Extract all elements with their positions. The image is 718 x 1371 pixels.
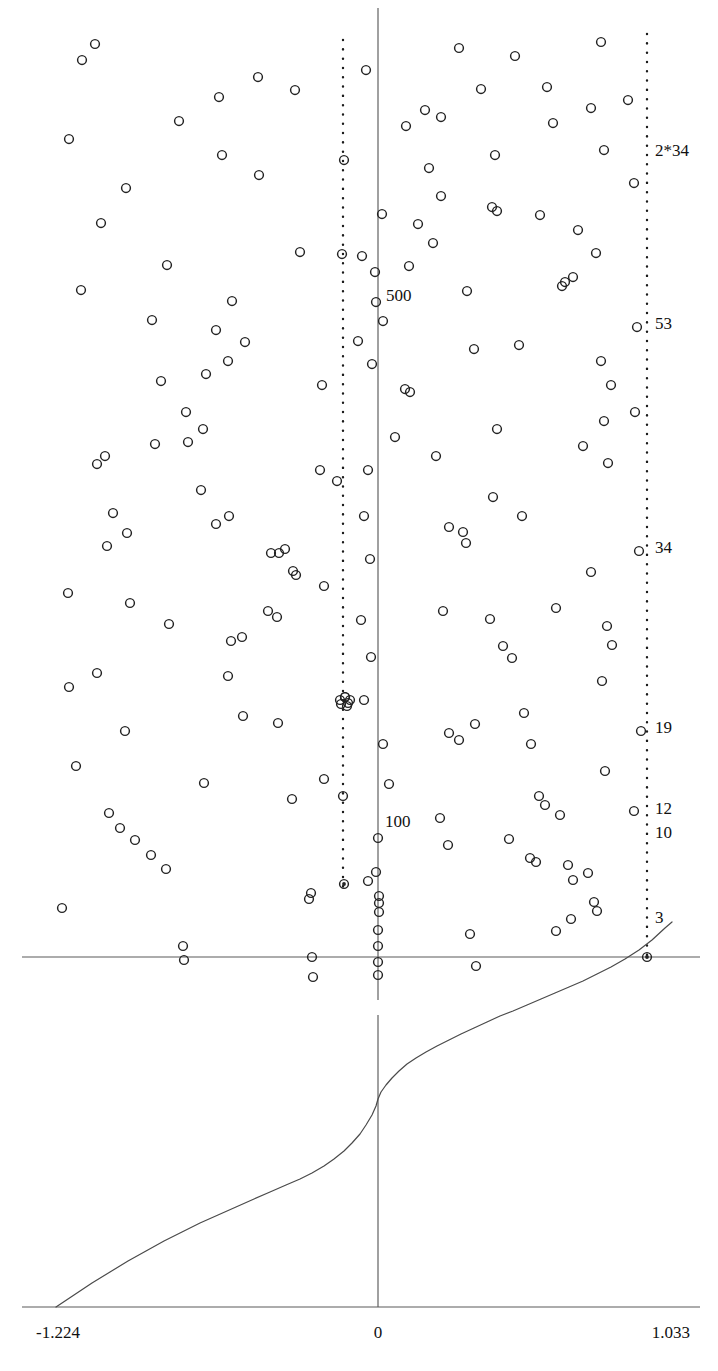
scatter-point [624, 96, 633, 105]
scatter-point [368, 360, 377, 369]
scatter-point [574, 226, 583, 235]
scatter-point [608, 641, 617, 650]
scatter-point [515, 341, 524, 350]
scatter-point [307, 889, 316, 898]
scatter-annotation-label: 53 [655, 314, 672, 333]
scatter-point [597, 357, 606, 366]
scatter-point [584, 869, 593, 878]
scatter-point [637, 727, 646, 736]
scatter-point [200, 779, 209, 788]
scatter-point [109, 509, 118, 518]
scatter-point [202, 370, 211, 379]
scatter-point [358, 252, 367, 261]
scatter-point [239, 712, 248, 721]
scatter-point [197, 486, 206, 495]
scatter-point [466, 930, 475, 939]
scatter-point [378, 210, 387, 219]
scatter-point [579, 442, 588, 451]
scatter-point [123, 529, 132, 538]
quantile-curve [56, 922, 672, 1307]
scatter-point [432, 452, 441, 461]
scatter-point [593, 907, 602, 916]
scatter-point [199, 425, 208, 434]
scatter-point [105, 809, 114, 818]
scatter-point [600, 417, 609, 426]
scatter-point [97, 219, 106, 228]
x-tick-label-center: 0 [374, 1323, 383, 1342]
scatter-point [163, 261, 172, 270]
scatter-point [520, 709, 529, 718]
scatter-point [391, 433, 400, 442]
scatter-point [182, 408, 191, 417]
scatter-point [491, 151, 500, 160]
scatter-point [354, 337, 363, 346]
scatter-point [472, 962, 481, 971]
scatter-point [151, 440, 160, 449]
scatter-point [455, 736, 464, 745]
scatter-point [364, 877, 373, 886]
scatter-points-group [58, 38, 652, 982]
scatter-point [305, 895, 314, 904]
scatter-point [273, 613, 282, 622]
scatter-point [405, 262, 414, 271]
scatter-point [288, 795, 297, 804]
scatter-point [375, 908, 384, 917]
scatter-point [364, 466, 373, 475]
scatter-point [360, 512, 369, 521]
scatter-point [175, 117, 184, 126]
marker-dot-lower-right [645, 955, 649, 959]
scatter-point [255, 171, 264, 180]
scatter-annotation-label: 10 [655, 823, 672, 842]
scatter-point [367, 653, 376, 662]
scatter-annotation-label: 500 [386, 286, 412, 305]
scatter-point [157, 377, 166, 386]
scatter-point [93, 669, 102, 678]
scatter-annotation-label: 34 [655, 538, 673, 557]
scatter-point [603, 622, 612, 631]
scatter-point [65, 135, 74, 144]
scatter-point [535, 792, 544, 801]
scatter-annotation-label: 2*34 [655, 141, 690, 160]
marker-dot-lower-left [342, 882, 346, 886]
scatter-point [148, 316, 157, 325]
scatter-point [126, 599, 135, 608]
scatter-point [607, 381, 616, 390]
scatter-point [455, 44, 464, 53]
scatter-point [372, 298, 381, 307]
scatter-point [635, 547, 644, 556]
scatter-point [604, 459, 613, 468]
scatter-point [508, 654, 517, 663]
scatter-point [77, 286, 86, 295]
scatter-point [64, 589, 73, 598]
scatter-point [238, 633, 247, 642]
scatter-point [445, 729, 454, 738]
scatter-point [437, 113, 446, 122]
scatter-point [552, 604, 561, 613]
figure-root: 2*3453341912103500100 -1.224 0 1.033 [0, 0, 718, 1371]
scatter-point [215, 93, 224, 102]
scatter-point [147, 851, 156, 860]
scatter-point [567, 915, 576, 924]
scatter-point [630, 807, 639, 816]
scatter-point [462, 539, 471, 548]
scatter-point [58, 904, 67, 913]
scatter-point [372, 868, 381, 877]
scatter-point [93, 460, 102, 469]
scatter-point [78, 56, 87, 65]
scatter-annotation-label: 100 [385, 812, 411, 831]
scatter-point [518, 512, 527, 521]
scatter-point [569, 273, 578, 282]
scatter-point [429, 239, 438, 248]
scatter-point [630, 179, 639, 188]
scatter-point [379, 317, 388, 326]
curve-panel: -1.224 0 1.033 [22, 922, 700, 1342]
scatter-point [536, 211, 545, 220]
scatter-point [505, 835, 514, 844]
x-tick-label-left: -1.224 [36, 1323, 80, 1342]
scatter-point [241, 338, 250, 347]
scatter-point [486, 615, 495, 624]
scatter-annotation-group: 2*3453341912103500100 [385, 141, 690, 927]
scatter-point [598, 677, 607, 686]
scatter-point [587, 104, 596, 113]
scatter-point [357, 616, 366, 625]
